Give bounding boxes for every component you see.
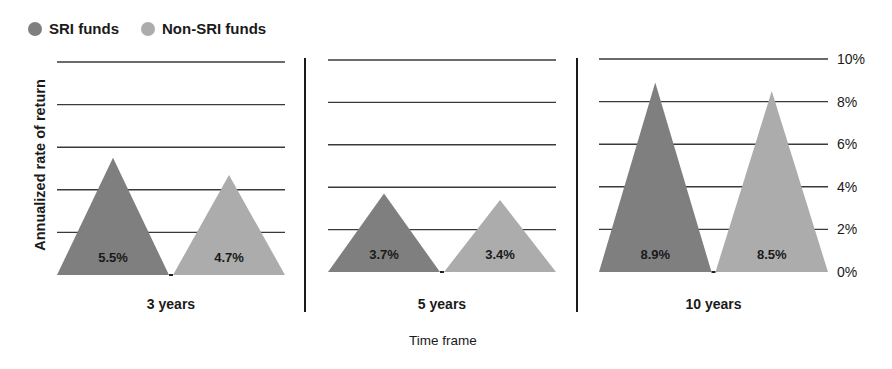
chart-plot: 5.5%4.7%3 years3.7%3.4%5 years8.9%8.5%10… <box>0 0 892 369</box>
data-label: 5.5% <box>98 250 128 265</box>
y-tick-label: 0% <box>837 264 857 280</box>
y-tick-label: 6% <box>837 136 857 152</box>
category-label: 3 years <box>147 296 195 312</box>
data-label: 3.4% <box>485 247 515 262</box>
category-label: 10 years <box>685 296 741 312</box>
data-label: 3.7% <box>369 247 399 262</box>
y-tick-label: 10% <box>837 51 865 67</box>
y-tick-label: 4% <box>837 179 857 195</box>
triangle-sri-funds-2 <box>599 82 712 272</box>
triangle-non-sri-funds-2 <box>716 91 829 272</box>
data-label: 8.5% <box>757 247 787 262</box>
y-tick-label: 2% <box>837 221 857 237</box>
category-label: 5 years <box>418 296 466 312</box>
data-label: 4.7% <box>214 250 244 265</box>
data-label: 8.9% <box>640 247 670 262</box>
y-tick-label: 8% <box>837 94 857 110</box>
